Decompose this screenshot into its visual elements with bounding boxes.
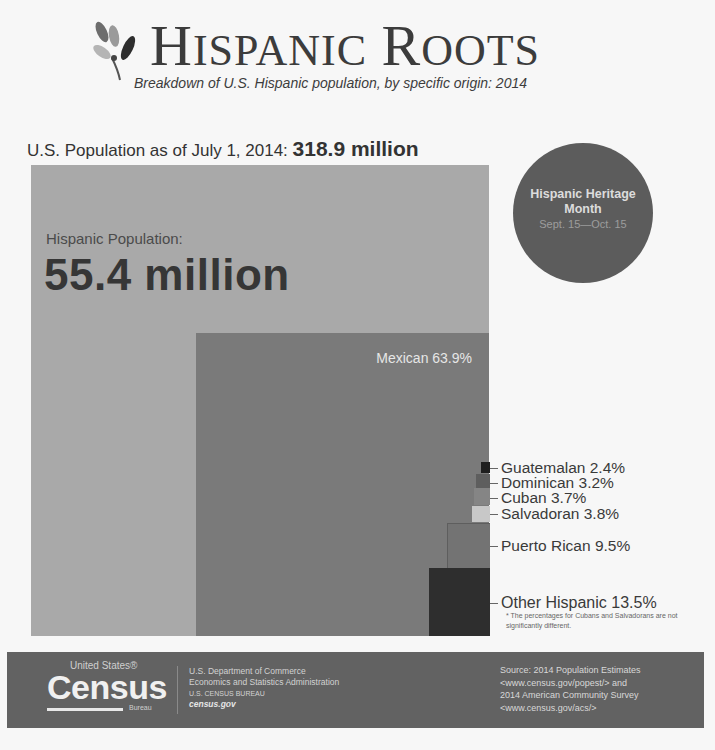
badge-line1: Hispanic Heritage	[530, 187, 636, 202]
puerto-rican-block	[447, 523, 490, 568]
census-logo-bureau: Bureau	[129, 704, 152, 711]
other-hispanic-block	[429, 568, 490, 636]
legend-label: Puerto Rican 9.5%	[501, 538, 630, 554]
leader-line	[490, 468, 498, 469]
us-population-value: 318.9 million	[293, 137, 419, 160]
header: HISPANIC ROOTS Breakdown of U.S. Hispani…	[0, 0, 715, 110]
footer-divider	[177, 666, 178, 714]
hispanic-population-label: Hispanic Population:	[46, 230, 183, 247]
legend-label: Cuban 3.7%	[501, 490, 586, 506]
badge-line2: Month	[564, 202, 601, 217]
leader-line	[490, 514, 498, 515]
us-population-label: U.S. Population as of July 1, 2014:	[27, 141, 288, 160]
dept-line: U.S. Department of Commerce	[189, 666, 339, 677]
hispanic-population-value: 55.4 million	[44, 250, 290, 300]
dept-line: Economics and Statistics Administration	[189, 677, 339, 688]
title-initial-h: H	[150, 13, 193, 78]
source-line: Source: 2014 Population Estimates	[500, 664, 641, 677]
leader-line	[490, 546, 498, 547]
source-info: Source: 2014 Population Estimates <www.c…	[500, 664, 641, 714]
dept-line: U.S. CENSUS BUREAU	[189, 688, 339, 699]
dominican-block	[476, 474, 490, 488]
page-title: HISPANIC ROOTS	[150, 16, 540, 81]
department-info: U.S. Department of Commerce Economics an…	[189, 666, 339, 710]
popest-link[interactable]: <www.census.gov/popest/> and	[500, 677, 641, 690]
title-word-roots: OOTS	[421, 26, 540, 75]
title-initial-r: R	[382, 13, 422, 78]
source-line: 2014 American Community Survey	[500, 689, 641, 702]
salvadoran-block	[472, 506, 490, 522]
legend-other-hispanic: Other Hispanic 13.5%	[490, 595, 657, 611]
acs-link[interactable]: <www.census.gov/acs/>	[500, 702, 641, 715]
title-word-hispanic: ISPANIC	[193, 26, 367, 75]
legend-salvadoran: Salvadoran 3.8%	[490, 506, 619, 522]
us-population: U.S. Population as of July 1, 2014: 318.…	[27, 137, 419, 161]
leader-line	[490, 603, 498, 604]
census-url-link[interactable]: census.gov	[189, 699, 339, 710]
leader-line	[490, 483, 498, 484]
census-logo-bar	[47, 708, 123, 711]
leader-line	[490, 498, 498, 499]
census-logo: Census	[47, 668, 167, 706]
footer: United States® Census Bureau U.S. Depart…	[7, 652, 704, 728]
badge-dates: Sept. 15—Oct. 15	[539, 217, 626, 232]
mexican-label: Mexican 63.9%	[376, 350, 472, 366]
legend-label: Salvadoran 3.8%	[501, 506, 619, 522]
footnote: * The percentages for Cubans and Salvado…	[506, 611, 706, 631]
heritage-month-badge: Hispanic Heritage Month Sept. 15—Oct. 15	[513, 143, 653, 283]
legend-label: Other Hispanic 13.5%	[501, 595, 657, 611]
cuban-block	[474, 488, 490, 505]
guatemalan-block	[481, 462, 490, 473]
subtitle: Breakdown of U.S. Hispanic population, b…	[134, 75, 527, 91]
legend-cuban: Cuban 3.7%	[490, 490, 586, 506]
legend-puerto-rican: Puerto Rican 9.5%	[490, 538, 630, 554]
